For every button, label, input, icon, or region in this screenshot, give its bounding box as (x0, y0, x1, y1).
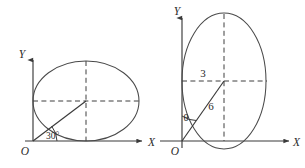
right-theta-label: θ (183, 112, 188, 123)
right-segment-label-3: 3 (200, 67, 206, 79)
right-radius-label-6: 6 (208, 100, 214, 112)
left-panel: Y X O 30° (19, 48, 156, 157)
right-inclined-radius (182, 81, 224, 141)
left-x-axis-label: X (147, 136, 156, 148)
left-angle-label: 30° (46, 131, 60, 141)
left-y-axis-label: Y (19, 48, 27, 60)
geometry-figure: Y X O 30° Y X O 3 (0, 0, 305, 168)
right-x-axis-label: X (292, 136, 301, 148)
right-y-axis-label: Y (174, 5, 182, 17)
left-origin-label: O (21, 145, 30, 157)
right-origin-label: O (171, 145, 180, 157)
figure-canvas: Y X O 30° Y X O 3 (0, 0, 305, 168)
left-inclined-radius (33, 101, 86, 141)
right-panel: Y X O 3 6 θ (160, 5, 301, 157)
